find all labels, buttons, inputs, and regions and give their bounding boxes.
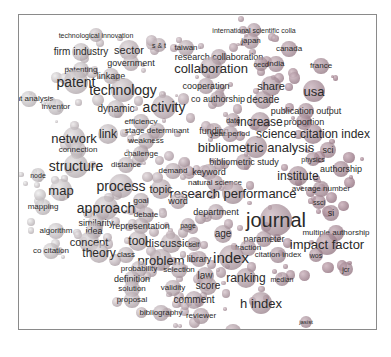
term-label: technological innovation <box>59 32 134 39</box>
term-label: usa <box>304 85 325 98</box>
term-label: wos <box>310 252 322 259</box>
term-label: algorithm <box>40 227 73 235</box>
node-bubble <box>141 68 146 73</box>
node-bubble <box>247 201 251 205</box>
term-label: decade <box>247 95 280 105</box>
node-bubble <box>28 227 34 233</box>
node-bubble <box>322 262 334 274</box>
node-bubble <box>237 225 243 231</box>
term-label: government <box>107 59 155 68</box>
term-label: average number <box>292 185 350 193</box>
node-bubble <box>186 113 196 123</box>
term-label: representation <box>112 222 170 231</box>
term-label: node <box>30 172 46 179</box>
term-label: class <box>117 251 135 259</box>
term-label: page <box>180 222 196 229</box>
node-bubble <box>200 241 208 249</box>
term-label: dynamic <box>97 104 134 114</box>
term-label: technology <box>89 83 157 97</box>
term-label: keyword <box>192 168 226 177</box>
term-label: activity <box>143 100 186 114</box>
node-bubble <box>164 151 174 161</box>
node-bubble <box>316 209 321 214</box>
term-label: age <box>215 229 232 239</box>
term-label: hirsch <box>222 328 243 330</box>
term-label: reviewer <box>186 312 216 320</box>
term-label: journal <box>246 210 306 230</box>
term-label: distance <box>111 161 141 169</box>
term-label: co citation <box>33 247 69 255</box>
term-label: mapping <box>28 203 59 211</box>
term-label: physics <box>301 156 324 163</box>
term-label: share <box>257 81 285 92</box>
term-label: jasist <box>299 319 313 325</box>
term-label: india <box>268 60 285 68</box>
term-label: weakness <box>128 137 164 145</box>
node-bubble <box>349 175 353 179</box>
term-label: research performance <box>169 187 296 200</box>
term-label: impact factor <box>290 238 364 251</box>
term-label: firm industry <box>54 47 108 57</box>
term-label: institute <box>277 170 318 182</box>
term-label: median <box>271 276 294 283</box>
term-label: ssci <box>313 199 325 206</box>
term-label: citation index <box>255 251 302 259</box>
node-bubble <box>289 72 300 83</box>
term-label: bibliometric analysis <box>198 141 314 154</box>
term-label: department <box>193 208 239 217</box>
node-bubble <box>27 218 36 227</box>
term-label: international scientific colla <box>212 27 295 34</box>
term-label: france <box>310 62 332 70</box>
term-label: theory <box>82 247 115 259</box>
term-label: jcr <box>342 266 349 273</box>
term-label: sector <box>114 45 144 56</box>
term-label: library <box>187 255 212 264</box>
term-label: oecd <box>253 61 268 68</box>
node-bubble <box>223 307 227 311</box>
node-bubble <box>175 94 178 97</box>
node-bubble <box>360 157 365 162</box>
node-bubble <box>238 16 244 22</box>
term-label: sci <box>323 146 334 155</box>
term-label: validity <box>161 284 185 292</box>
term-label: link <box>99 128 117 140</box>
term-label: s & t <box>152 42 166 49</box>
node-bubble <box>195 75 199 79</box>
node-bubble <box>221 281 226 286</box>
term-label: approach <box>77 201 135 215</box>
node-bubble <box>285 83 293 91</box>
node-bubble <box>299 270 311 282</box>
node-bubble <box>283 264 287 268</box>
node-bubble <box>34 182 40 188</box>
term-label: selection <box>163 266 195 274</box>
term-label: collaboration <box>174 62 248 75</box>
term-label: stage determinant <box>125 127 189 135</box>
node-bubble <box>142 161 146 165</box>
node-bubble <box>55 120 58 123</box>
term-label: map <box>48 184 73 197</box>
term-label: si <box>328 209 335 218</box>
term-label: japan <box>241 37 261 45</box>
term-label: co authorship <box>191 95 245 104</box>
node-bubble <box>271 35 279 43</box>
node-bubble <box>23 181 28 186</box>
node-bubble <box>338 201 348 211</box>
node-bubble <box>18 172 24 178</box>
node-bubble <box>75 99 82 106</box>
term-map-frame: technological innovationinternational sc… <box>18 14 377 330</box>
term-label: year period <box>210 130 250 138</box>
term-label: connection <box>59 146 98 154</box>
term-label: structure <box>49 159 103 173</box>
term-label: authorship <box>320 165 362 174</box>
term-label: proposal <box>117 296 148 304</box>
term-label: comment <box>173 295 214 305</box>
term-label: index <box>213 250 249 265</box>
term-label: h index <box>240 297 282 310</box>
term-label: ranking <box>226 272 265 284</box>
term-label: canada <box>276 45 302 53</box>
term-label: cooperation <box>182 82 229 91</box>
node-bubble <box>61 255 65 259</box>
node-bubble <box>178 324 182 328</box>
term-label: inventor <box>42 103 70 111</box>
term-label: science citation index <box>256 128 370 140</box>
